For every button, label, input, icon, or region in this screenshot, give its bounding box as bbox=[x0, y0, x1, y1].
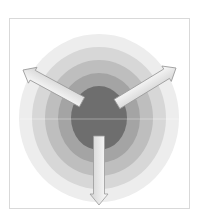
concentric-rings-diagram bbox=[0, 0, 198, 221]
